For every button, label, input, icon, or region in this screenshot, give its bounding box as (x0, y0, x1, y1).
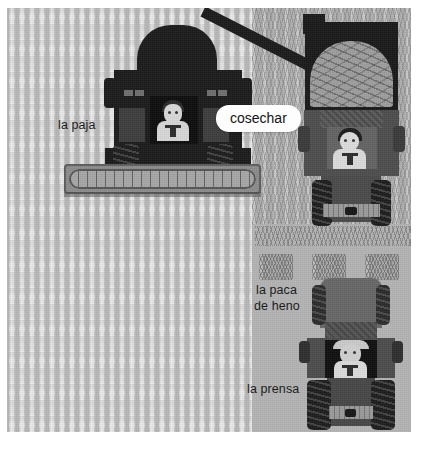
combine-headlight (207, 90, 216, 96)
truck-mirror-left (298, 126, 310, 152)
hay-bale (365, 254, 399, 280)
label-straw: la paja (58, 118, 96, 133)
hay-bale (312, 254, 346, 280)
illustration-scene: la paja la paca de heno la prensa cosech… (0, 0, 424, 452)
combine-headlight (135, 90, 144, 96)
field-plate (7, 8, 411, 432)
label-baler: la prensa (247, 382, 299, 397)
standing-crop-lower (7, 224, 252, 432)
combine-reel (69, 169, 256, 189)
combine-headlight (218, 90, 227, 96)
combine-header-shadow (64, 192, 261, 197)
hay-bale (259, 254, 293, 280)
tractor-rear-wheel (307, 380, 331, 430)
truck-wheel (312, 180, 332, 226)
combine-wheel (113, 144, 139, 166)
combine-side-panel (119, 108, 145, 142)
combine-headlight (124, 90, 133, 96)
truck-wheel (371, 180, 391, 226)
tractor-rear-wheel (371, 380, 395, 430)
label-hay-bale-line2: de heno (254, 299, 300, 314)
tractor-hitch (345, 409, 356, 417)
label-hay-bale-line1: la paca (256, 283, 297, 298)
tractor-mirror-right (392, 341, 403, 363)
baler-fender-right (376, 285, 390, 325)
tractor-mirror-left (299, 341, 310, 363)
truck-cab-roof (320, 110, 383, 128)
combine-hood (137, 25, 217, 75)
truck-mirror-right (393, 126, 405, 152)
callout-cosechar: cosechar (216, 105, 301, 132)
stubble-row (255, 226, 411, 246)
baler-body (320, 278, 382, 328)
combine-mirror-left (104, 78, 116, 108)
truck-hitch (345, 207, 357, 215)
baler-fender-left (312, 285, 326, 325)
combine-mirror-right (240, 78, 252, 108)
combine-wheel (207, 144, 233, 166)
